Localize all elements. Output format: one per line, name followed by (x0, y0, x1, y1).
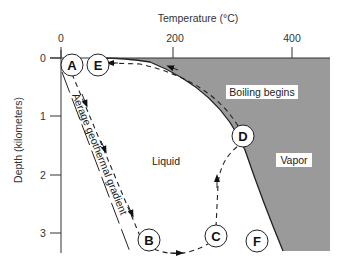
x-axis-title: Temperature (°C) (158, 12, 239, 24)
vapor-label: Vapor (280, 154, 308, 166)
x-tick-label-400: 400 (283, 32, 301, 44)
svg-text:E: E (94, 58, 103, 73)
svg-text:C: C (211, 229, 221, 244)
path-c-to-d (216, 146, 238, 227)
y-axis-title: Depth (kilometers) (12, 97, 24, 183)
svg-text:D: D (238, 129, 247, 144)
point-a: A (61, 54, 83, 76)
svg-text:F: F (253, 234, 261, 249)
point-c: C (205, 225, 227, 247)
x-tick-label-0: 0 (58, 32, 64, 44)
x-tick-label-200: 200 (166, 32, 184, 44)
svg-text:B: B (144, 233, 153, 248)
svg-text:A: A (67, 58, 77, 73)
path-b-to-c (154, 244, 208, 253)
phase-diagram: 0 200 400 Temperature (°C) 0 1 2 3 Depth… (0, 0, 343, 267)
y-tick-label-0: 0 (40, 52, 46, 64)
point-f: F (246, 230, 268, 252)
point-b: B (138, 229, 160, 251)
y-tick-label-1: 1 (40, 110, 46, 122)
boiling-label: Boiling begins (229, 86, 294, 98)
point-d: D (232, 125, 254, 147)
y-tick-label-2: 2 (40, 169, 46, 181)
y-tick-label-3: 3 (40, 227, 46, 239)
gradient-label: Aerage geothermal gradient (70, 91, 130, 216)
liquid-label: Liquid (152, 155, 180, 167)
point-e: E (87, 54, 109, 76)
